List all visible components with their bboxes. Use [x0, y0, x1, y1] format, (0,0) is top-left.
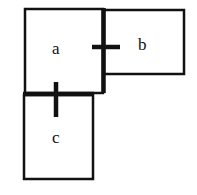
box-a-label: a — [52, 39, 60, 58]
box-adjacency-diagram: a b c — [0, 0, 197, 195]
box-a: a — [25, 9, 103, 93]
box-b-label: b — [138, 35, 147, 54]
box-c-label: c — [52, 128, 60, 147]
box-c: c — [24, 95, 93, 179]
box-b: b — [104, 10, 184, 74]
